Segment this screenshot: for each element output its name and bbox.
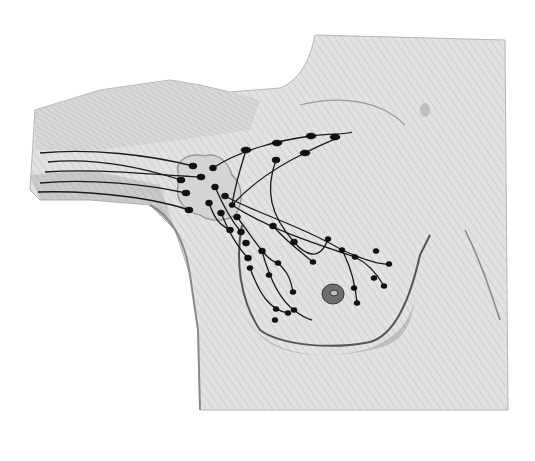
nipple-center [330,290,338,296]
lymphatic-illustration [0,0,535,461]
clavicle-mark [420,103,430,117]
